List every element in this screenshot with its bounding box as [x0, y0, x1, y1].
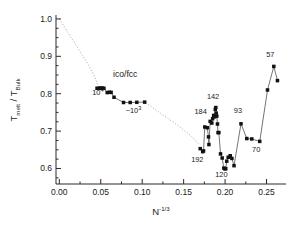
- annotation-ten-to-three: ~103: [126, 105, 142, 115]
- data-point-marker: [143, 100, 147, 104]
- data-point-marker: [250, 137, 254, 141]
- data-point-marker: [122, 101, 126, 105]
- y-axis-title-melt: melt: [14, 104, 21, 116]
- y-tick-label: 0.9: [40, 51, 52, 61]
- annotation-label-120: 120: [215, 170, 227, 179]
- y-axis-title-bulk: Bulk: [14, 78, 21, 91]
- x-axis-title: N-1/3: [152, 205, 170, 217]
- data-point-marker: [220, 156, 224, 160]
- x-tick-label: 0.25: [258, 187, 275, 197]
- y-tick-label: 0.7: [40, 126, 52, 136]
- annotation-text: 192: [191, 155, 203, 164]
- annotation-text: 142: [207, 92, 219, 101]
- x-tick-label: 0.20: [217, 187, 234, 197]
- annotation-label-70: 70: [252, 145, 260, 154]
- data-point-marker: [276, 79, 280, 83]
- bulk-limit-dotted-upper: [59, 19, 98, 86]
- annotation-ico-fcc: ico/fcc: [113, 69, 138, 79]
- y-axis-title: Tmelt / TBulk: [8, 78, 21, 122]
- data-point-marker: [135, 101, 139, 105]
- annotation-label-192: 192: [191, 155, 203, 164]
- annotation-superscript: 4: [100, 87, 103, 93]
- x-tick-label: 0.05: [92, 187, 109, 197]
- bulk-limit-dotted-lower: [146, 103, 200, 145]
- annotation-text: ~10: [126, 106, 139, 115]
- annotation-text: 57: [266, 50, 274, 59]
- y-axis-title-slash: / T: [8, 90, 19, 104]
- data-point-marker: [258, 140, 262, 144]
- data-point-marker: [128, 101, 132, 105]
- chart-figure: 0.000.050.100.150.200.25 0.60.70.80.91.0…: [0, 0, 303, 225]
- x-axis-title-superscript: -1/3: [159, 205, 170, 212]
- data-point-marker: [219, 152, 223, 156]
- data-point-marker: [266, 88, 270, 92]
- data-point-marker: [225, 159, 229, 163]
- data-point-marker: [202, 149, 206, 153]
- annotation-text: 10: [92, 88, 100, 97]
- annotation-text: 120: [215, 170, 227, 179]
- melting-temperature-scatter-plot: 0.000.050.100.150.200.25 0.60.70.80.91.0…: [0, 0, 303, 225]
- y-tick-label: 0.8: [40, 89, 52, 99]
- annotation-label-184: 184: [194, 107, 206, 116]
- annotation-label-57: 57: [266, 50, 274, 59]
- data-point-marker: [207, 135, 211, 139]
- data-point-marker: [216, 122, 220, 126]
- annotation-text: 184: [194, 107, 206, 116]
- data-point-marker: [230, 157, 234, 161]
- data-point-marker: [272, 65, 276, 69]
- x-tick-label: 0.15: [175, 187, 192, 197]
- data-point-marker: [232, 164, 236, 168]
- data-point-marker: [214, 106, 218, 110]
- data-point-marker: [245, 137, 249, 141]
- annotation-label-93: 93: [234, 106, 242, 115]
- data-point-marker: [198, 147, 202, 151]
- annotation-text: 93: [234, 106, 242, 115]
- y-tick-group: 0.60.70.80.91.0: [40, 14, 61, 178]
- annotation-ten-to-four: 104: [92, 87, 103, 97]
- annotation-text: ico/fcc: [113, 69, 138, 79]
- data-point-marker: [215, 114, 219, 118]
- data-point-marker: [109, 91, 113, 95]
- x-tick-group: 0.000.050.100.150.200.25: [51, 179, 275, 197]
- guide-curve-group: [59, 19, 199, 145]
- data-series-group: [95, 65, 279, 171]
- data-point-marker: [112, 96, 116, 100]
- annotation-label-142: 142: [207, 92, 219, 101]
- data-point-marker: [217, 131, 221, 135]
- annotation-text: 70: [252, 145, 260, 154]
- axes-group: 0.000.050.100.150.200.25 0.60.70.80.91.0: [40, 14, 286, 197]
- y-tick-label: 1.0: [40, 14, 52, 24]
- annotation-superscript: 3: [138, 105, 141, 111]
- data-point-marker: [210, 121, 214, 125]
- series-line: [97, 88, 145, 102]
- annotation-group: ico/fcc104~103184142192120937057: [92, 50, 274, 179]
- y-tick-label: 0.6: [40, 163, 52, 173]
- data-point-marker: [207, 143, 211, 147]
- data-point-marker: [239, 122, 243, 126]
- data-point-marker: [214, 111, 218, 115]
- x-tick-label: 0.00: [51, 187, 68, 197]
- x-tick-label: 0.10: [134, 187, 151, 197]
- data-point-marker: [206, 126, 210, 130]
